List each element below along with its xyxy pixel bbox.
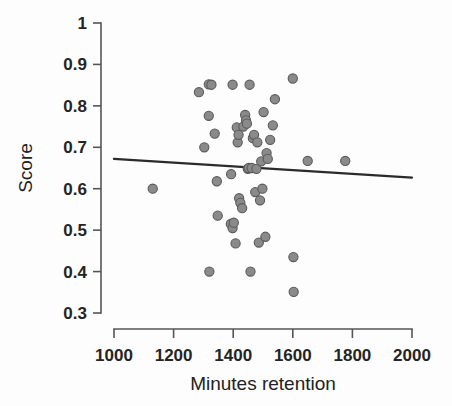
data-point: [266, 135, 275, 144]
data-point: [212, 177, 221, 186]
data-point: [288, 74, 297, 83]
data-point: [228, 80, 237, 89]
data-point: [259, 107, 268, 116]
data-point: [246, 267, 255, 276]
data-point: [227, 170, 236, 179]
data-point: [242, 119, 251, 128]
x-ticklabel-1600: 1600: [274, 346, 312, 365]
data-point: [245, 80, 254, 89]
y-axis: 0.30.40.50.60.70.80.91 Score: [15, 14, 101, 323]
x-ticklabel-1200: 1200: [155, 346, 193, 365]
data-point: [200, 143, 209, 152]
scatter-plot-figure: 0.30.40.50.60.70.80.91 Score 10001200140…: [0, 0, 452, 406]
x-ticklabels: 100012001400160018002000: [95, 346, 431, 365]
y-axis-title: Score: [15, 143, 36, 193]
data-point: [229, 218, 238, 227]
data-point: [261, 232, 270, 241]
x-tickmarks: [114, 329, 412, 338]
x-ticklabel-1800: 1800: [333, 346, 371, 365]
data-point: [289, 287, 298, 296]
data-point: [205, 267, 214, 276]
data-point: [255, 196, 264, 205]
y-ticklabel-0.6: 0.6: [63, 180, 87, 199]
x-ticklabel-1000: 1000: [95, 346, 133, 365]
scatter-markers: [148, 74, 350, 297]
data-point: [341, 156, 350, 165]
data-point: [253, 138, 262, 147]
data-point: [210, 129, 219, 138]
data-point: [268, 121, 277, 130]
data-point: [194, 88, 203, 97]
data-point: [263, 154, 272, 163]
plot-canvas: 0.30.40.50.60.70.80.91 Score 10001200140…: [0, 0, 452, 406]
y-tickmarks: [93, 23, 101, 313]
y-ticklabel-0.5: 0.5: [63, 221, 87, 240]
x-axis: 100012001400160018002000 Minutes retenti…: [95, 329, 431, 394]
data-point: [270, 95, 279, 104]
x-ticklabel-1400: 1400: [214, 346, 252, 365]
data-point: [148, 184, 157, 193]
data-point: [234, 130, 243, 139]
y-ticklabel-1: 1: [78, 14, 87, 33]
y-ticklabels: 0.30.40.50.60.70.80.91: [63, 14, 87, 323]
data-point: [258, 184, 267, 193]
x-ticklabel-2000: 2000: [393, 346, 431, 365]
y-ticklabel-0.3: 0.3: [63, 304, 87, 323]
y-ticklabel-0.8: 0.8: [63, 97, 87, 116]
data-point: [204, 111, 213, 120]
data-point: [238, 204, 247, 213]
data-point: [207, 80, 216, 89]
y-ticklabel-0.7: 0.7: [63, 138, 87, 157]
y-ticklabel-0.9: 0.9: [63, 55, 87, 74]
y-ticklabel-0.4: 0.4: [63, 263, 87, 282]
data-point: [289, 252, 298, 261]
data-point: [303, 156, 312, 165]
data-point: [231, 239, 240, 248]
x-axis-title: Minutes retention: [190, 373, 336, 394]
data-point: [213, 211, 222, 220]
